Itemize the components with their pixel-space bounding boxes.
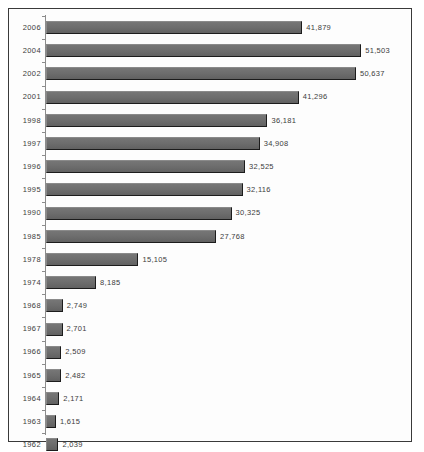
bar-container: 8,185 [46, 271, 409, 294]
bar-container: 2,039 [46, 433, 409, 452]
bar-value-label: 36,181 [271, 117, 296, 125]
bar-container: 34,908 [46, 132, 409, 155]
bar-row: 197815,105 [9, 248, 411, 271]
category-label: 1990 [9, 209, 41, 217]
category-label: 1965 [9, 372, 41, 380]
bar-value-label: 30,325 [236, 209, 261, 217]
category-label: 2004 [9, 47, 41, 55]
category-label: 1978 [9, 256, 41, 264]
bar-row: 199532,116 [9, 178, 411, 201]
bar-value-label: 34,908 [264, 140, 289, 148]
bar-value-label: 2,482 [65, 372, 85, 380]
bar-container: 30,325 [46, 202, 409, 225]
bar-container: 32,525 [46, 155, 409, 178]
category-label: 1996 [9, 163, 41, 171]
bar-value-label: 51,503 [365, 47, 390, 55]
category-label: 2001 [9, 93, 41, 101]
bar-row: 199030,325 [9, 202, 411, 225]
bar-container: 1,615 [46, 410, 409, 433]
bar[interactable] [46, 183, 243, 196]
bar-value-label: 2,509 [65, 348, 85, 356]
bar[interactable] [46, 207, 232, 220]
bar-row: 200141,296 [9, 86, 411, 109]
bar[interactable] [46, 44, 361, 57]
bar-row: 200451,503 [9, 39, 411, 62]
bar-value-label: 2,039 [62, 441, 82, 449]
bar-container: 15,105 [46, 248, 409, 271]
bar-container: 50,637 [46, 62, 409, 85]
category-label: 1985 [9, 233, 41, 241]
bar-container: 2,482 [46, 364, 409, 387]
bar-container: 2,171 [46, 387, 409, 410]
bar-row: 199734,908 [9, 132, 411, 155]
bar-row: 199836,181 [9, 109, 411, 132]
bar[interactable] [46, 438, 58, 451]
bar[interactable] [46, 415, 56, 428]
category-label: 2002 [9, 70, 41, 78]
bar-row: 19622,039 [9, 433, 411, 452]
bar-value-label: 32,116 [247, 186, 271, 194]
bar[interactable] [46, 253, 138, 266]
bar-value-label: 41,879 [306, 24, 331, 32]
category-label: 1974 [9, 279, 41, 287]
plot-area: 200641,879200451,503200250,637200141,296… [9, 9, 411, 441]
bar-value-label: 1,615 [60, 418, 80, 426]
bar-value-label: 50,637 [360, 70, 385, 78]
bar[interactable] [46, 21, 302, 34]
bar[interactable] [46, 137, 260, 150]
category-label: 1964 [9, 395, 41, 403]
category-label: 2006 [9, 24, 41, 32]
bar-row: 19642,171 [9, 387, 411, 410]
bar[interactable] [46, 346, 61, 359]
bar-row: 19672,701 [9, 317, 411, 340]
bar[interactable] [46, 276, 96, 289]
bar-value-label: 32,525 [249, 163, 274, 171]
category-label: 1995 [9, 186, 41, 194]
bar-row: 19748,185 [9, 271, 411, 294]
bar-value-label: 41,296 [303, 93, 328, 101]
bar[interactable] [46, 67, 356, 80]
bar-row: 200250,637 [9, 62, 411, 85]
bar-row: 19662,509 [9, 341, 411, 364]
bar-row: 198527,768 [9, 225, 411, 248]
bar-row: 19631,615 [9, 410, 411, 433]
bar[interactable] [46, 323, 63, 336]
bar-value-label: 15,105 [142, 256, 167, 264]
bar-row: 19652,482 [9, 364, 411, 387]
bar-container: 2,701 [46, 317, 409, 340]
bar-value-label: 2,171 [63, 395, 83, 403]
bar[interactable] [46, 114, 267, 127]
bar-container: 41,879 [46, 16, 409, 39]
bar-row: 19682,749 [9, 294, 411, 317]
bar[interactable] [46, 160, 245, 173]
category-label: 1967 [9, 325, 41, 333]
bar-container: 36,181 [46, 109, 409, 132]
bar-container: 2,509 [46, 341, 409, 364]
bar-row: 199632,525 [9, 155, 411, 178]
chart-frame: 200641,879200451,503200250,637200141,296… [8, 8, 412, 442]
bar-container: 32,116 [46, 178, 409, 201]
category-label: 1997 [9, 140, 41, 148]
category-label: 1962 [9, 441, 41, 449]
bar-rows: 200641,879200451,503200250,637200141,296… [9, 16, 411, 452]
bar-value-label: 2,701 [67, 325, 87, 333]
bar-container: 2,749 [46, 294, 409, 317]
category-label: 1963 [9, 418, 41, 426]
bar-container: 41,296 [46, 86, 409, 109]
bar-container: 27,768 [46, 225, 409, 248]
bar[interactable] [46, 369, 61, 382]
bar[interactable] [46, 299, 63, 312]
category-label: 1998 [9, 117, 41, 125]
bar[interactable] [46, 392, 59, 405]
bar-value-label: 2,749 [67, 302, 87, 310]
bar-row: 200641,879 [9, 16, 411, 39]
category-label: 1966 [9, 348, 41, 356]
bar-value-label: 27,768 [220, 233, 245, 241]
category-label: 1968 [9, 302, 41, 310]
bar-value-label: 8,185 [100, 279, 120, 287]
bar[interactable] [46, 230, 216, 243]
bar[interactable] [46, 91, 299, 104]
bar-container: 51,503 [46, 39, 409, 62]
